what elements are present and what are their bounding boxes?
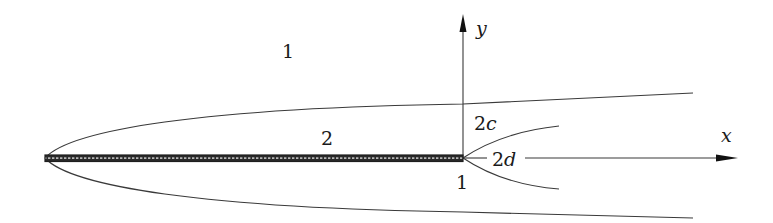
diagram-canvas: 1 2 2c 2d 1 y x <box>0 0 773 223</box>
dimension-2d-number: 2 <box>492 148 504 170</box>
x-axis-arrow-icon <box>716 155 738 162</box>
y-axis-arrow-icon <box>460 14 467 32</box>
diagram-svg <box>0 0 773 223</box>
outer-boundary-lower <box>45 158 693 218</box>
region-1-top-label: 1 <box>282 42 294 61</box>
region-2-label: 2 <box>321 129 333 148</box>
flat-plate <box>45 155 463 162</box>
x-axis-label: x <box>721 126 732 145</box>
dimension-2d-variable: d <box>504 148 516 170</box>
dimension-2c-label: 2c <box>474 114 497 133</box>
y-axis-label: y <box>476 19 487 38</box>
dimension-2c-variable: c <box>486 112 497 134</box>
region-1-bottom-label: 1 <box>456 173 468 192</box>
dimension-2c-number: 2 <box>474 112 486 134</box>
dimension-2d-label: 2d <box>492 150 516 169</box>
outer-boundary-upper <box>45 93 693 158</box>
